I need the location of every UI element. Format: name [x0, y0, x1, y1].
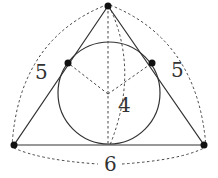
apex-vertex-dot: [105, 3, 112, 10]
base-label: 6: [104, 152, 117, 176]
base-dimension-arc-left: [14, 148, 98, 164]
right-side-label: 5: [171, 58, 184, 82]
left-side-dimension-arc: [12, 5, 106, 147]
left-tangent-point-dot: [65, 60, 72, 67]
height-label: 4: [118, 93, 131, 117]
triangle-incircle-diagram: 5 5 4 6: [0, 0, 218, 178]
bottom-left-vertex-dot: [11, 142, 18, 149]
left-side-label: 5: [35, 60, 48, 84]
right-tangent-point-dot: [149, 60, 156, 67]
radius-to-right-tangent: [108, 63, 152, 94]
bottom-right-vertex-dot: [201, 142, 208, 149]
base-dimension-arc-right: [122, 148, 204, 164]
radius-to-left-tangent: [68, 63, 108, 94]
